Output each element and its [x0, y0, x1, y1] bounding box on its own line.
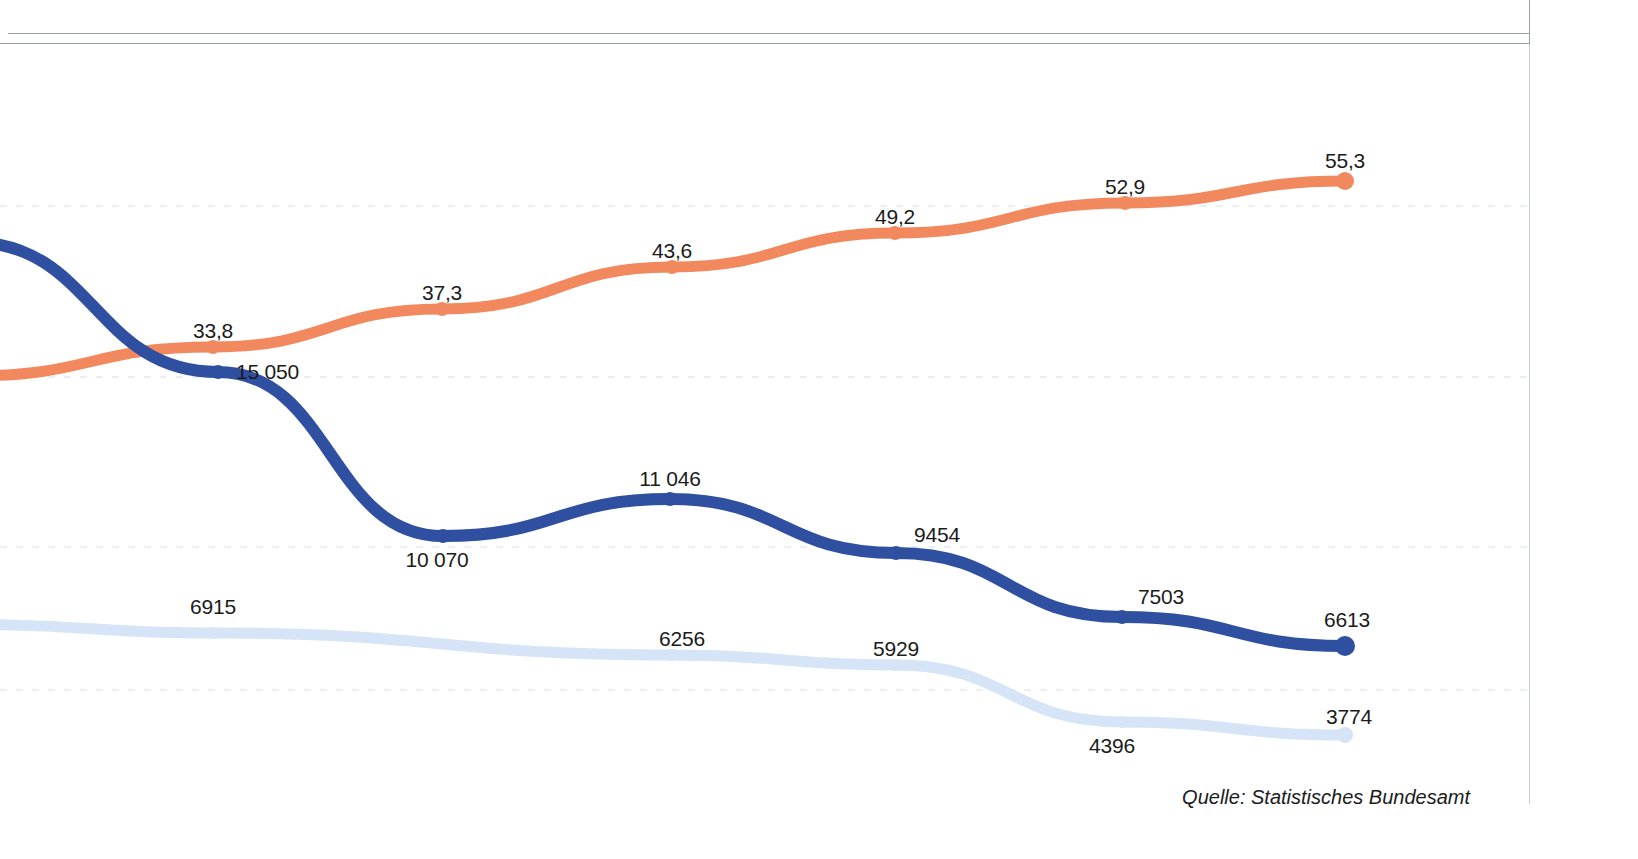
data-label-lightblue: 4396: [1089, 734, 1135, 758]
series-line-orange: [0, 172, 1354, 376]
data-label-orange: 33,8: [193, 319, 233, 343]
data-label-blue: 9454: [914, 523, 960, 547]
data-point-marker[interactable]: [436, 529, 450, 543]
source-note: Quelle: Statistisches Bundesamt: [1182, 786, 1470, 809]
data-label-orange: 43,6: [652, 239, 692, 263]
data-label-lightblue: 3774: [1326, 705, 1372, 729]
data-point-marker[interactable]: [1336, 172, 1354, 190]
data-point-marker[interactable]: [889, 546, 903, 560]
data-point-marker[interactable]: [207, 627, 219, 639]
plot-area: [0, 0, 1638, 859]
data-label-orange: 55,3: [1325, 149, 1365, 173]
chart-figure: 33,837,343,649,252,955,315 05010 07011 0…: [0, 0, 1638, 859]
data-label-orange: 37,3: [422, 281, 462, 305]
data-label-blue: 6613: [1324, 608, 1370, 632]
data-label-lightblue: 5929: [873, 637, 919, 661]
data-label-blue: 11 046: [639, 467, 700, 491]
data-point-marker[interactable]: [663, 492, 677, 506]
data-label-blue: 7503: [1138, 585, 1184, 609]
data-point-marker[interactable]: [1337, 727, 1353, 743]
data-label-blue: 10 070: [405, 548, 468, 572]
data-point-marker[interactable]: [211, 365, 225, 379]
data-point-marker[interactable]: [1115, 610, 1129, 624]
chart-svg: [0, 0, 1638, 859]
data-point-marker[interactable]: [1116, 716, 1128, 728]
data-label-orange: 49,2: [875, 205, 915, 229]
data-label-lightblue: 6915: [190, 595, 236, 619]
data-label-blue: 15 050: [236, 360, 299, 384]
data-label-lightblue: 6256: [659, 627, 705, 651]
series-path: [0, 181, 1345, 376]
data-label-orange: 52,9: [1105, 175, 1145, 199]
data-point-marker[interactable]: [1335, 636, 1355, 656]
